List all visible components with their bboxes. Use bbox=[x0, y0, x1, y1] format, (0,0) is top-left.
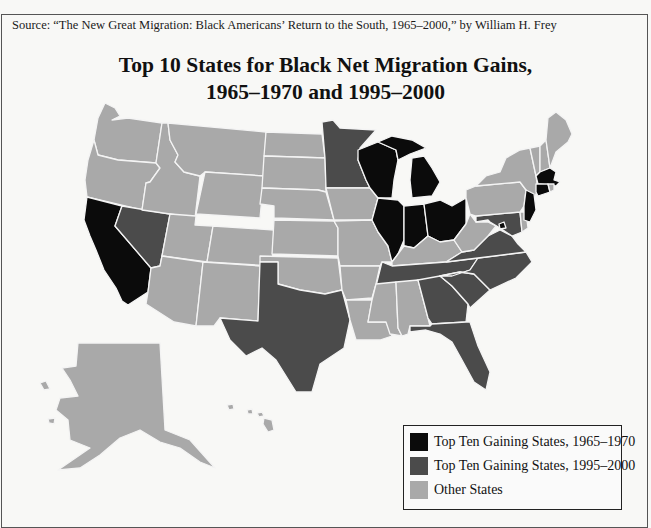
state-nj bbox=[524, 190, 536, 222]
legend-swatch-other bbox=[410, 481, 428, 499]
state-ne bbox=[260, 188, 334, 220]
state-hi bbox=[227, 404, 274, 432]
legend-swatch-1965-1970 bbox=[410, 433, 428, 451]
legend-item-1995-2000: Top Ten Gaining States, 1995–2000 bbox=[410, 456, 635, 476]
legend: Top Ten Gaining States, 1965–1970 Top Te… bbox=[403, 425, 622, 510]
state-fl bbox=[410, 322, 490, 390]
state-ks bbox=[272, 220, 338, 256]
state-pa bbox=[466, 182, 526, 216]
state-ak bbox=[56, 343, 215, 470]
state-ak-island bbox=[48, 418, 55, 424]
state-ia bbox=[326, 188, 378, 220]
legend-item-1965-1970: Top Ten Gaining States, 1965–1970 bbox=[410, 432, 635, 452]
state-nd bbox=[264, 132, 325, 158]
state-dc bbox=[499, 222, 506, 229]
state-ut bbox=[162, 214, 213, 262]
state-nm bbox=[196, 262, 260, 326]
state-sd bbox=[262, 156, 326, 192]
legend-label: Other States bbox=[434, 482, 503, 498]
state-mt bbox=[168, 123, 266, 176]
legend-label: Top Ten Gaining States, 1995–2000 bbox=[434, 458, 635, 474]
state-wa bbox=[94, 103, 162, 163]
legend-label: Top Ten Gaining States, 1965–1970 bbox=[434, 434, 635, 450]
legend-item-other: Other States bbox=[410, 480, 503, 500]
legend-swatch-1995-2000 bbox=[410, 457, 428, 475]
state-wy bbox=[196, 172, 264, 218]
state-me bbox=[546, 112, 572, 168]
state-ak-island bbox=[40, 381, 50, 390]
